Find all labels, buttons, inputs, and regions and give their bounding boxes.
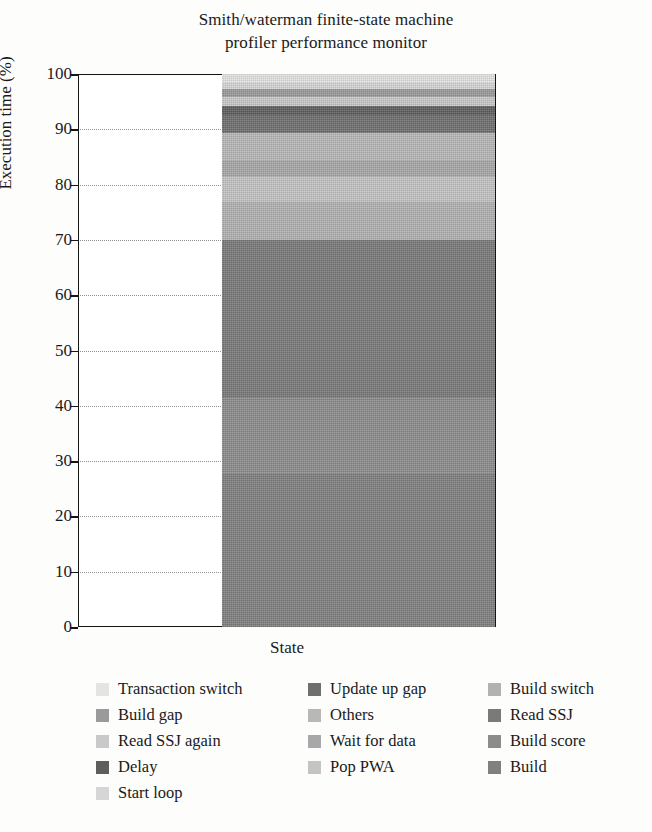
legend-column-1: Transaction switchBuild gapRead SSJ agai…: [96, 676, 286, 806]
legend-item: Transaction switch: [96, 676, 286, 702]
chart-title: Smith/waterman finite-state machine prof…: [0, 8, 652, 54]
legend-item: Start loop: [96, 780, 286, 806]
x-axis-label: State: [78, 638, 496, 658]
legend-swatch-icon: [96, 683, 109, 696]
legend-label: Transaction switch: [118, 681, 243, 698]
legend-label: Pop PWA: [330, 759, 395, 776]
legend-swatch-icon: [96, 787, 109, 800]
legend-swatch-icon: [488, 683, 501, 696]
y-tick-label: 50: [28, 342, 72, 359]
bar-segment: [222, 201, 495, 240]
legend-label: Delay: [118, 759, 157, 776]
legend-swatch-icon: [96, 735, 109, 748]
legend-column-3: Build switchRead SSJBuild scoreBuild: [488, 676, 638, 780]
chart-title-line-1: Smith/waterman finite-state machine: [0, 8, 652, 31]
y-tick-label: 30: [28, 452, 72, 469]
legend-item: Pop PWA: [308, 754, 473, 780]
legend-label: Read SSJ: [510, 707, 573, 724]
legend-label: Build: [510, 759, 547, 776]
bar-segment: [222, 398, 495, 473]
chart-title-line-2: profiler performance monitor: [0, 31, 652, 54]
y-tick-label: 100: [28, 65, 72, 82]
legend-label: Update up gap: [330, 681, 426, 698]
legend-swatch-icon: [308, 761, 321, 774]
legend-column-2: Update up gapOthersWait for dataPop PWA: [308, 676, 473, 780]
y-tick-label: 10: [28, 563, 72, 580]
y-tick-label: 20: [28, 507, 72, 524]
bar-segment: [222, 74, 495, 82]
legend-label: Build score: [510, 733, 586, 750]
bar-segment: [222, 106, 495, 115]
legend-item: Read SSJ again: [96, 728, 286, 754]
legend-swatch-icon: [96, 709, 109, 722]
legend-swatch-icon: [488, 709, 501, 722]
y-tick-label: 80: [28, 176, 72, 193]
legend-label: Build gap: [118, 707, 183, 724]
y-tick-label: 60: [28, 286, 72, 303]
legend-item: Wait for data: [308, 728, 473, 754]
legend-item: Update up gap: [308, 676, 473, 702]
legend-label: Others: [330, 707, 374, 724]
bar-segment: [222, 176, 495, 201]
y-tick-label: 40: [28, 397, 72, 414]
y-axis-tick-labels: 1009080706050403020100: [20, 0, 72, 832]
bar-segment: [222, 240, 495, 398]
bar-segment: [222, 82, 495, 89]
legend-swatch-icon: [308, 735, 321, 748]
legend-item: Others: [308, 702, 473, 728]
legend-item: Build switch: [488, 676, 638, 702]
bar-segment: [222, 114, 495, 132]
chart-page: Smith/waterman finite-state machine prof…: [0, 0, 652, 832]
legend-item: Build score: [488, 728, 638, 754]
legend-item: Delay: [96, 754, 286, 780]
legend-item: Read SSJ: [488, 702, 638, 728]
y-tick-label: 0: [28, 618, 72, 635]
legend-label: Build switch: [510, 681, 594, 698]
legend-swatch-icon: [96, 761, 109, 774]
legend-swatch-icon: [488, 735, 501, 748]
legend-swatch-icon: [488, 761, 501, 774]
y-axis-label: Execution time (%): [0, 8, 16, 238]
bar-segment: [222, 472, 495, 627]
legend-label: Read SSJ again: [118, 733, 221, 750]
bar-segment: [222, 132, 495, 160]
legend-swatch-icon: [308, 709, 321, 722]
y-tick-label: 90: [28, 120, 72, 137]
legend-label: Wait for data: [330, 733, 416, 750]
stacked-bar: [222, 74, 495, 627]
bar-segment: [222, 88, 495, 97]
y-tick-label: 70: [28, 231, 72, 248]
bar-segment: [222, 97, 495, 106]
legend-label: Start loop: [118, 785, 183, 802]
legend-item: Build gap: [96, 702, 286, 728]
bar-segment: [222, 160, 495, 177]
legend-swatch-icon: [308, 683, 321, 696]
legend-item: Build: [488, 754, 638, 780]
